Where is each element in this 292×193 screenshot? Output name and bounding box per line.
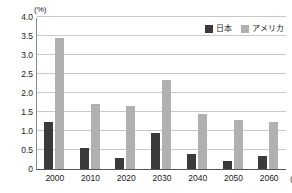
bar-japan-2000 bbox=[44, 122, 53, 170]
bar-group bbox=[180, 18, 216, 169]
y-axis-tick-label: 1.0 bbox=[21, 127, 33, 136]
y-axis-tick-label: 2.0 bbox=[21, 89, 33, 98]
y-axis-tick-label: 2.5 bbox=[21, 70, 33, 79]
x-axis-tick-label: 2060 bbox=[260, 174, 279, 183]
x-axis-tick-label: 2000 bbox=[45, 174, 64, 183]
bar-america-2000 bbox=[55, 38, 64, 169]
y-axis-tick-label: 1.5 bbox=[21, 108, 33, 117]
gridline bbox=[37, 16, 286, 17]
x-axis-tick-label: 2050 bbox=[224, 174, 243, 183]
bar-japan-2010 bbox=[80, 148, 89, 169]
bar-chart: (%) 日本 アメリカ 00.51.01.52.02.53.03.54.0 20… bbox=[0, 0, 292, 193]
plot-area: 00.51.01.52.02.53.03.54.0 20002010202020… bbox=[36, 18, 286, 170]
bars-layer bbox=[37, 18, 286, 169]
y-axis-tick-label: 3.0 bbox=[21, 51, 33, 60]
bar-america-2050 bbox=[234, 120, 243, 169]
bar-america-2030 bbox=[162, 80, 171, 169]
bar-japan-2020 bbox=[115, 158, 124, 169]
y-axis-tick-label: 4.0 bbox=[21, 13, 33, 22]
bar-america-2060 bbox=[269, 122, 278, 170]
x-axis-tick-label: 2010 bbox=[81, 174, 100, 183]
bar-group bbox=[144, 18, 180, 169]
bar-group bbox=[73, 18, 109, 169]
x-axis-unit-label: (年) bbox=[290, 175, 292, 182]
bar-japan-2060 bbox=[258, 156, 267, 169]
x-axis-tick-label: 2030 bbox=[153, 174, 172, 183]
y-axis-tick-label: 0.5 bbox=[21, 146, 33, 155]
x-axis-tick-label: 2040 bbox=[188, 174, 207, 183]
bar-group bbox=[251, 18, 287, 169]
y-axis-unit-label: (%) bbox=[34, 6, 46, 14]
bar-group bbox=[216, 18, 252, 169]
x-axis-tick-label: 2020 bbox=[117, 174, 136, 183]
bar-america-2010 bbox=[91, 104, 100, 169]
bar-japan-2050 bbox=[223, 161, 232, 169]
bar-group bbox=[37, 18, 73, 169]
bar-america-2020 bbox=[126, 106, 135, 169]
bar-japan-2030 bbox=[151, 133, 160, 169]
y-axis-tick-label: 0 bbox=[28, 165, 33, 174]
bar-america-2040 bbox=[198, 114, 207, 169]
bar-japan-2040 bbox=[187, 154, 196, 169]
bar-group bbox=[108, 18, 144, 169]
y-axis-tick-label: 3.5 bbox=[21, 32, 33, 41]
